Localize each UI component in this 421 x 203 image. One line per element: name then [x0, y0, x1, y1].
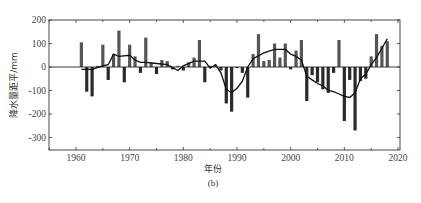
- bar-1963: [91, 67, 94, 96]
- bar-2005: [316, 67, 319, 82]
- bar-1965: [101, 45, 104, 67]
- bar-1995: [262, 61, 265, 67]
- x-tick-label: 1980: [174, 153, 193, 163]
- bar-2011: [348, 67, 351, 80]
- bar-2012: [353, 67, 356, 130]
- x-tick-label: 2020: [389, 153, 408, 163]
- bar-2001: [294, 51, 297, 67]
- bar-1972: [139, 67, 142, 73]
- x-tick-label: 1990: [228, 153, 247, 163]
- y-tick-label: -100: [29, 86, 47, 96]
- bar-1999: [284, 44, 287, 68]
- bar-2018: [386, 41, 389, 67]
- x-tick-label: 2000: [281, 153, 300, 163]
- bar-1987: [219, 67, 222, 71]
- bar-2004: [311, 67, 314, 75]
- y-tick-label: -300: [29, 133, 47, 143]
- x-tick-label: 1960: [67, 153, 86, 163]
- bar-1994: [257, 34, 260, 67]
- bar-1989: [230, 67, 233, 112]
- y-tick-label: 200: [32, 15, 47, 25]
- bar-1996: [268, 60, 271, 67]
- bar-1991: [241, 67, 244, 73]
- bar-2016: [375, 34, 378, 67]
- bar-1961: [80, 42, 83, 67]
- y-tick-label: 100: [32, 39, 47, 49]
- y-tick-label: -200: [29, 109, 47, 119]
- y-tick-label: 0: [41, 62, 46, 72]
- bar-1983: [198, 40, 201, 67]
- anomaly-bars: [80, 31, 389, 131]
- smoothed-trend-line: [81, 39, 387, 98]
- bar-2008: [332, 67, 335, 73]
- x-axis-title: 年份: [204, 163, 222, 174]
- bar-1975: [155, 67, 158, 74]
- bar-1966: [107, 67, 110, 80]
- bar-1997: [273, 44, 276, 68]
- bar-2009: [337, 40, 340, 67]
- bar-1971: [133, 56, 136, 67]
- bar-1984: [203, 67, 206, 82]
- precipitation-anomaly-chart: 2001000-100-200-300 19601970198019902000…: [0, 0, 421, 203]
- x-tick-label: 1970: [120, 153, 139, 163]
- bar-1962: [85, 67, 88, 92]
- y-axis-title: 降水量距平/mm: [8, 52, 19, 118]
- bar-1968: [117, 31, 120, 67]
- bar-1998: [278, 58, 281, 67]
- x-tick-label: 2010: [335, 153, 354, 163]
- bar-2010: [343, 67, 346, 121]
- bar-1969: [123, 67, 126, 82]
- figure-caption: (b): [208, 178, 219, 188]
